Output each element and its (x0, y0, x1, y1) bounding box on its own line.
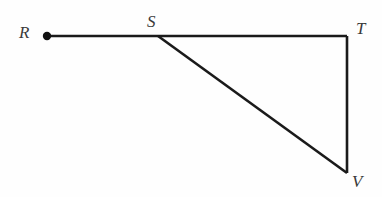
point-label-r: R (19, 24, 29, 41)
geometry-figure: R S T V (0, 0, 382, 197)
point-label-v: V (352, 173, 362, 190)
figure-canvas (0, 0, 382, 197)
segment-S-V (158, 36, 347, 173)
point-label-s: S (147, 13, 156, 30)
point-label-t: T (356, 20, 365, 37)
vertex-dot-R (43, 32, 51, 40)
